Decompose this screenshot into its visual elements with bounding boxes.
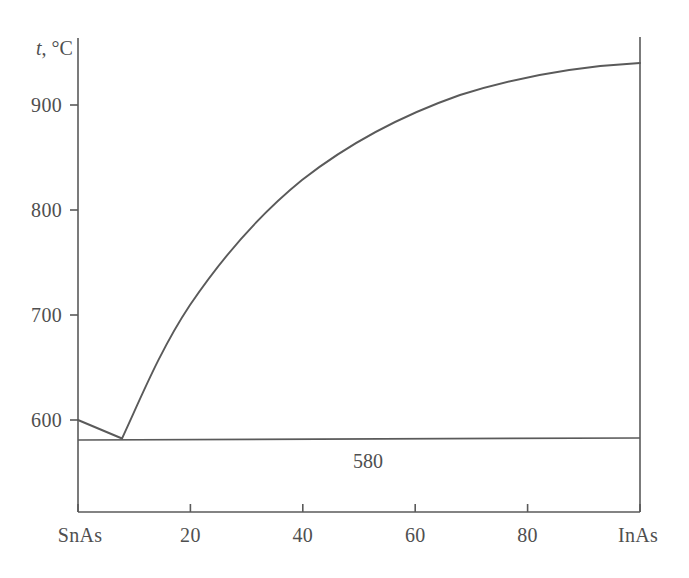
x-tick-label-60: 60 — [405, 524, 426, 547]
y-tick-label-700: 700 — [10, 304, 62, 327]
x-axis-ticks-group — [78, 504, 640, 512]
x-tick-label-80: 80 — [517, 524, 538, 547]
x-tick-label-20: 20 — [180, 524, 201, 547]
x-tick-label-snas: SnAs — [58, 524, 103, 547]
y-tick-label-600: 600 — [10, 409, 62, 432]
y-tick-label-800: 800 — [10, 199, 62, 222]
phase-diagram-figure: t, °C 900 800 700 600 SnAs 20 40 6 — [0, 0, 689, 578]
x-tick-label-inas: InAs — [618, 524, 658, 547]
eutectic-horizontal-line — [78, 438, 640, 440]
plot-area — [0, 0, 689, 578]
axes-group — [78, 37, 640, 512]
eutectic-temperature-label: 580 — [353, 450, 383, 473]
liquidus-right-branch — [122, 63, 640, 439]
x-tick-label-40: 40 — [292, 524, 313, 547]
y-tick-label-900: 900 — [10, 94, 62, 117]
liquidus-left-branch — [78, 420, 122, 439]
y-axis-ticks-group — [70, 105, 78, 420]
